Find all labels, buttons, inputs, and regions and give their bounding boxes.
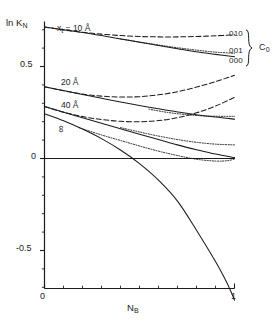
series-brace	[246, 30, 252, 66]
curves-group	[45, 27, 235, 300]
y-tick-label-minus0.5: -0.5	[16, 244, 32, 253]
brace-icon	[246, 30, 252, 66]
y-axis-title-main: ln K	[6, 17, 22, 28]
series-group-label-C0: C0	[259, 43, 270, 53]
series-group-label-main: C	[259, 42, 266, 52]
curve-label-20-angstrom: 20 Å	[61, 78, 79, 87]
x-axis-title-subscript: B	[134, 307, 139, 314]
curve-label-xt-value: = 10 Å	[63, 23, 90, 33]
curve-label-xt-10-angstrom: xt = 10 Å	[57, 24, 90, 34]
series-label-001: 001	[229, 47, 243, 55]
curve-label-infinity: ∞	[57, 124, 64, 134]
y-tick-label-0: 0	[31, 152, 36, 161]
infinity-glyph: ∞	[56, 125, 66, 132]
y-axis-title-subscript: N	[22, 22, 27, 29]
curve-2	[121, 39, 235, 53]
curve-5	[149, 109, 235, 116]
series-label-010: 010	[229, 30, 243, 38]
curve-8	[121, 128, 235, 145]
x-axis-title-main: N	[127, 302, 134, 313]
y-tick-label-0.5: 0.5	[20, 60, 33, 69]
series-label-000: 000	[229, 57, 243, 65]
figure-panel: ln KN NB 0.5 0 -0.5 0 1 xt = 10 Å 20 Å 4…	[0, 0, 279, 322]
x-tick-label-1: 1	[231, 292, 236, 301]
curve-9	[45, 114, 235, 300]
curve-10	[79, 128, 235, 162]
x-axis-title: NB	[127, 303, 139, 314]
y-axis-title: ln KN	[6, 18, 27, 29]
axes-group	[40, 22, 235, 289]
series-group-label-subscript: 0	[266, 46, 270, 53]
curve-label-40-angstrom: 40 Å	[61, 101, 79, 110]
x-tick-label-0: 0	[40, 292, 45, 301]
